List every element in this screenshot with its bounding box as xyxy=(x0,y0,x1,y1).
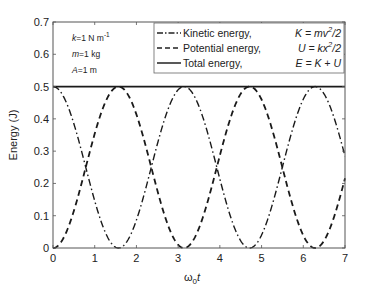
x-axis-label: ω0t xyxy=(184,271,201,286)
y-tick-label: 0.1 xyxy=(34,210,49,222)
energy-chart: 0123456700.10.20.30.40.50.60.7 k=1 N m-1… xyxy=(0,0,366,296)
potential-energy-curve xyxy=(53,87,345,248)
parameter-annotations: k=1 N m-1 m=1 kg A=1 m xyxy=(71,31,110,75)
x-tick-label: 3 xyxy=(175,252,181,264)
legend-formula-kinetic: K = mv2/2 xyxy=(295,25,341,39)
x-tick-label: 5 xyxy=(259,252,265,264)
legend-formula-total: E = K + U xyxy=(295,57,341,69)
x-tick-label: 4 xyxy=(217,252,223,264)
x-tick-label: 2 xyxy=(133,252,139,264)
y-tick-label: 0 xyxy=(43,242,49,254)
legend-label-kinetic: Kinetic energy, xyxy=(183,27,252,39)
legend-label-total: Total energy, xyxy=(183,57,242,69)
annotation-k: k=1 N m-1 xyxy=(72,31,110,43)
plot-lines xyxy=(53,87,345,248)
y-axis-label: Energy (J) xyxy=(7,110,19,161)
x-tick-label: 7 xyxy=(342,252,348,264)
kinetic-energy-curve xyxy=(53,87,345,248)
annotation-A: A=1 m xyxy=(71,65,97,75)
x-tick-label: 0 xyxy=(50,252,56,264)
legend: Kinetic energy, Potential energy, Total … xyxy=(154,23,344,73)
y-tick-label: 0.7 xyxy=(34,16,49,28)
legend-label-potential: Potential energy, xyxy=(183,42,261,54)
y-tick-label: 0.2 xyxy=(34,177,49,189)
annotation-m: m=1 kg xyxy=(72,49,100,59)
x-tick-label: 6 xyxy=(300,252,306,264)
y-tick-label: 0.5 xyxy=(34,81,49,93)
y-tick-label: 0.4 xyxy=(34,113,49,125)
y-tick-label: 0.3 xyxy=(34,145,49,157)
y-tick-label: 0.6 xyxy=(34,48,49,60)
legend-formula-potential: U = kx2/2 xyxy=(298,40,341,54)
x-tick-label: 1 xyxy=(92,252,98,264)
